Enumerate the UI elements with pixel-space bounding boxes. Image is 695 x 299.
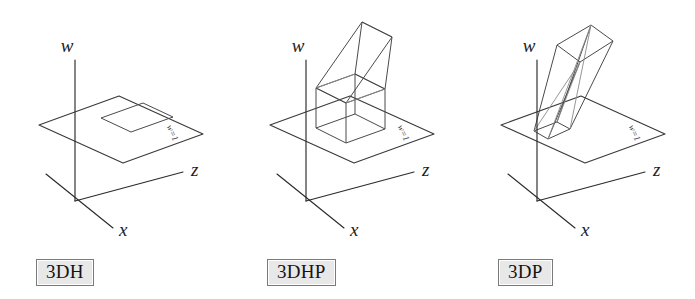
caption-wrap-3dh: 3DH xyxy=(0,259,231,286)
axis-z xyxy=(306,172,414,201)
plane-w-equals-1 xyxy=(501,96,665,163)
axis-z xyxy=(75,172,183,201)
plane-label-w1: w=1 xyxy=(396,123,412,142)
diagram-3dp: w z x w=1 xyxy=(462,0,693,250)
figure-panel-3dp: w z x w=1 3DP xyxy=(462,0,693,299)
axis-label-w: w xyxy=(61,35,74,56)
caption-wrap-3dp: 3DP xyxy=(462,259,693,286)
caption-3dhp: 3DHP xyxy=(267,259,336,286)
axis-label-z: z xyxy=(190,159,199,180)
axis-label-x: x xyxy=(580,219,590,240)
caption-3dh: 3DH xyxy=(36,259,94,286)
diagram-3dhp: w z x w=1 xyxy=(231,0,462,250)
plane-label-w1: w=1 xyxy=(627,123,643,142)
diagram-3dh: w z x w=1 xyxy=(0,0,231,250)
figure-panel-3dh: w z x w=1 3DH xyxy=(0,0,231,299)
shape-slanted-prism xyxy=(316,22,392,103)
axis-label-x: x xyxy=(118,219,128,240)
axis-label-w: w xyxy=(523,35,536,56)
figure-row: w z x w=1 3DH xyxy=(0,0,695,299)
axis-x xyxy=(277,174,344,228)
axis-label-z: z xyxy=(421,159,430,180)
axis-label-z: z xyxy=(652,159,661,180)
axis-z xyxy=(537,172,645,201)
shape-tilted-frustum xyxy=(534,25,613,139)
axis-label-x: x xyxy=(349,219,359,240)
shape-flat-square-outline xyxy=(101,103,173,132)
axis-x xyxy=(46,174,113,228)
caption-3dp: 3DP xyxy=(498,259,553,286)
axis-label-w: w xyxy=(292,35,305,56)
axis-x xyxy=(508,174,575,228)
figure-panel-3dhp: w z x w=1 3DHP xyxy=(231,0,462,299)
caption-wrap-3dhp: 3DHP xyxy=(231,259,462,286)
plane-label-w1: w=1 xyxy=(165,123,181,142)
plane-w-equals-1 xyxy=(39,96,203,163)
plane-w-equals-1 xyxy=(270,96,434,163)
